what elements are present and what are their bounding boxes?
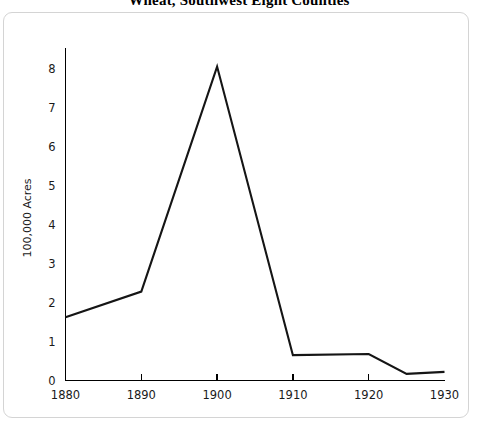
y-tick-label: 3 [48, 257, 55, 271]
y-axis-tick-labels: 012345678 [48, 62, 55, 388]
x-tick-label: 1920 [354, 388, 383, 402]
x-tick-label: 1930 [430, 388, 459, 402]
y-tick-label: 4 [48, 218, 55, 232]
y-tick-label: 7 [48, 101, 55, 115]
x-tick-label: 1890 [127, 388, 156, 402]
y-tick-label: 6 [48, 140, 55, 154]
data-series-line [66, 67, 445, 374]
y-tick-label: 5 [48, 179, 55, 193]
chart-page: Wheat, Southwest Eight Counties 01234567… [0, 0, 478, 423]
axis-tick-marks [141, 374, 368, 381]
x-tick-label: 1910 [278, 388, 307, 402]
y-axis-title: 100,000 Acres [21, 178, 34, 257]
y-tick-label: 1 [48, 335, 55, 349]
y-tick-label: 0 [48, 374, 55, 388]
chart-svg: 012345678 188018901900191019201930 100,0… [0, 0, 478, 423]
line-chart: 012345678 188018901900191019201930 100,0… [0, 0, 478, 423]
y-tick-label: 8 [48, 62, 55, 76]
x-tick-label: 1900 [202, 388, 231, 402]
y-tick-label: 2 [48, 296, 55, 310]
x-tick-label: 1880 [51, 388, 80, 402]
x-axis-tick-labels: 188018901900191019201930 [51, 388, 459, 402]
